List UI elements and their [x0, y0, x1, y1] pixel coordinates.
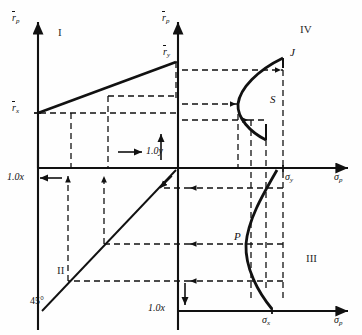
- quadrant-label-IV: IV: [300, 24, 312, 35]
- nomograph-svg: [0, 0, 362, 335]
- tick-label-sigma-x: σx: [262, 315, 270, 327]
- unit-marker-1-0-x-lower: 1.0x: [148, 303, 165, 313]
- tick-label-r-x: rx: [12, 103, 19, 115]
- quadrant-label-III: III: [306, 253, 317, 264]
- axis-label-right-horizontal-upper: σp: [334, 172, 342, 184]
- unit-marker-1-0-x-upper: 1.0x: [7, 172, 24, 182]
- unit-marker-1-0-y: 1.0y: [146, 146, 163, 156]
- construction-verticals-quadrant-IV: [238, 60, 283, 168]
- tick-label-sigma-y: σy: [285, 172, 293, 184]
- axis-label-right-horizontal-lower: σp: [334, 315, 342, 327]
- quadrant-label-II: II: [57, 265, 64, 276]
- point-label-P: P: [234, 231, 241, 242]
- angle-label-45-degrees: 45°: [30, 296, 44, 306]
- point-label-J: J: [290, 47, 295, 58]
- quadrant-label-I: I: [58, 27, 62, 38]
- curve-quadrant-II-45deg: [42, 170, 176, 311]
- transfer-arrows-I-to-IV: [182, 70, 281, 120]
- curve-quadrant-III: [246, 170, 277, 309]
- figure-canvas: rp rp σp σp ry rx σy σx I II III IV J S …: [0, 0, 362, 335]
- transfer-dashed-to-45line: [68, 188, 190, 281]
- curve-quadrant-I: [38, 62, 176, 113]
- axis-label-upper-right-vertical: rp: [162, 13, 169, 25]
- axis-label-upper-left-vertical: rp: [12, 13, 19, 25]
- point-label-S: S: [270, 94, 276, 105]
- tick-label-r-y: ry: [163, 47, 170, 59]
- arrow-on-45-line: [160, 176, 172, 188]
